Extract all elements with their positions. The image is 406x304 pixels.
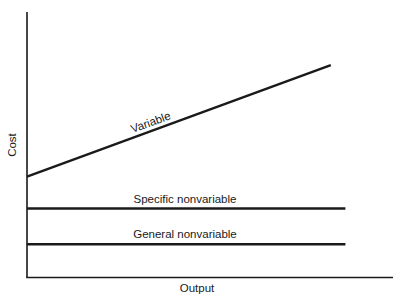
cost-output-chart: Variable Specific nonvariable General no… (0, 0, 406, 304)
general-nonvariable-line-label: General nonvariable (133, 228, 237, 240)
y-axis-title: Cost (6, 132, 18, 156)
x-axis-title: Output (180, 282, 215, 294)
variable-cost-line (27, 65, 331, 177)
specific-nonvariable-line-label: Specific nonvariable (134, 193, 237, 205)
